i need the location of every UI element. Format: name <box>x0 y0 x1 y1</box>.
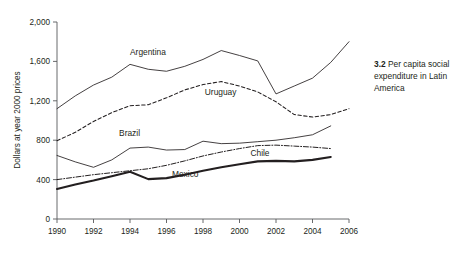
series-line-uruguay <box>57 82 349 141</box>
series-label-brazil: Brazil <box>119 128 140 138</box>
y-tick-label: 800 <box>36 136 50 145</box>
y-axis-title: Dollars at year 2000 prices <box>13 71 22 168</box>
x-tick-label: 1996 <box>157 227 176 236</box>
y-tick-label: 1,600 <box>30 57 51 66</box>
x-tick-label: 1990 <box>48 227 67 236</box>
chart-area: 04008001,2001,6002,000 19901992199419961… <box>0 0 370 257</box>
y-tick-label: 400 <box>36 176 50 185</box>
series-label-argentina: Argentina <box>130 47 166 57</box>
figure-per-capita-social-expenditure: 04008001,2001,6002,000 19901992199419961… <box>0 0 456 257</box>
caption-text: Per capita social expenditure in Latin A… <box>374 59 449 93</box>
y-tick-label: 1,200 <box>30 97 51 106</box>
x-tick-label: 1994 <box>121 227 140 236</box>
figure-caption: 3.2 Per capita social expenditure in Lat… <box>374 59 454 95</box>
series-label-chile: Chile <box>250 148 269 158</box>
series-line-argentina <box>57 42 349 109</box>
x-tick-label: 1998 <box>194 227 213 236</box>
x-tick-label: 2000 <box>230 227 249 236</box>
x-tick-label: 1992 <box>84 227 103 236</box>
y-tick-label: 2,000 <box>30 18 51 27</box>
x-tick-label: 2002 <box>267 227 286 236</box>
line-chart: 04008001,2001,6002,000 19901992199419961… <box>0 0 370 257</box>
chart-axes <box>57 22 349 219</box>
series-label-mexico: Mexico <box>172 169 199 179</box>
x-axis-ticks: 199019921994199619982000200220042006 <box>48 219 359 236</box>
caption-number: 3.2 <box>374 59 386 69</box>
x-tick-label: 2006 <box>340 227 359 236</box>
y-tick-label: 0 <box>45 215 50 224</box>
series-lines <box>57 42 349 189</box>
y-axis-ticks: 04008001,2001,6002,000 <box>30 18 58 224</box>
x-tick-label: 2004 <box>303 227 322 236</box>
series-label-uruguay: Uruguay <box>205 87 237 97</box>
